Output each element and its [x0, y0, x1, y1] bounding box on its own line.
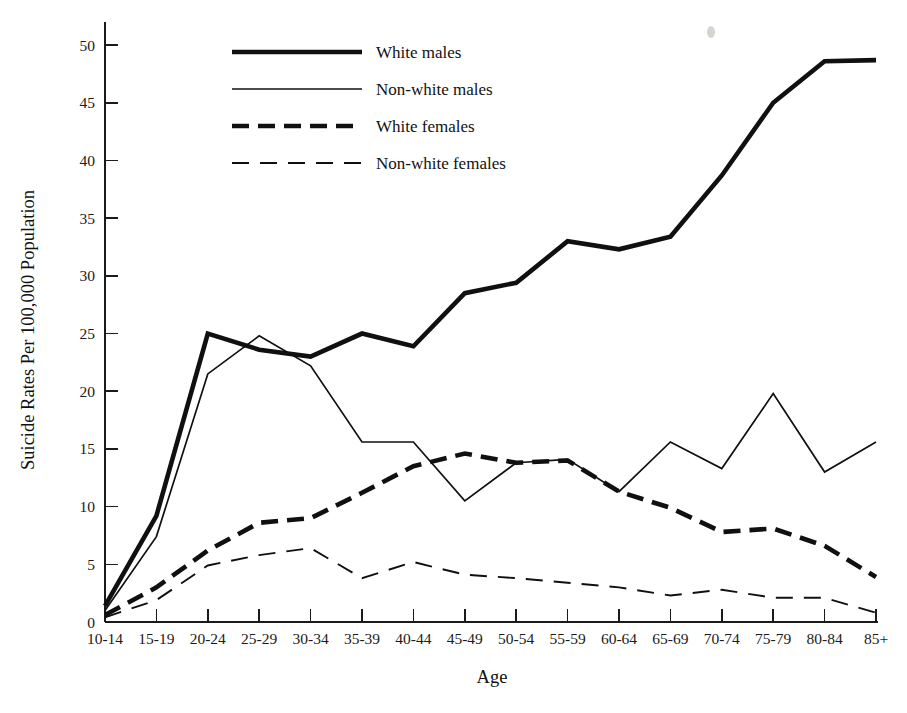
y-axis-ticks: 05101520253035404550: [80, 37, 119, 631]
y-tick-label: 45: [80, 94, 96, 111]
x-tick-label: 70-74: [704, 630, 740, 647]
x-tick-label: 80-84: [807, 630, 843, 647]
x-tick-label: 85+: [864, 630, 888, 647]
x-tick-label: 25-29: [241, 630, 277, 647]
x-axis-label: Age: [477, 667, 508, 687]
series-line-white-females: [105, 454, 876, 616]
x-tick-label: 45-49: [447, 630, 483, 647]
chart-legend: White malesNon-white malesWhite femalesN…: [232, 43, 506, 173]
x-tick-label: 35-39: [344, 630, 380, 647]
paper-smudge: [707, 26, 715, 38]
line-chart-svg: 05101520253035404550 10-1415-1920-2425-2…: [0, 0, 907, 713]
y-tick-label: 30: [80, 267, 96, 284]
x-tick-label: 75-79: [755, 630, 791, 647]
x-tick-label: 55-59: [550, 630, 586, 647]
x-tick-label: 50-54: [498, 630, 534, 647]
legend-label-3: Non-white females: [376, 154, 506, 173]
x-tick-label: 10-14: [87, 630, 123, 647]
y-tick-label: 10: [80, 498, 96, 515]
legend-label-2: White females: [376, 117, 475, 136]
legend-label-0: White males: [376, 43, 461, 62]
y-tick-label: 25: [80, 325, 96, 342]
x-tick-label: 30-34: [293, 630, 329, 647]
y-tick-label: 0: [87, 614, 95, 631]
series-line-white-males: [105, 60, 876, 606]
series-line-non-white-males: [105, 336, 876, 611]
x-tick-label: 15-19: [138, 630, 174, 647]
y-tick-label: 50: [80, 37, 96, 54]
y-tick-label: 35: [80, 210, 96, 227]
chart-figure: 05101520253035404550 10-1415-1920-2425-2…: [0, 0, 907, 713]
y-axis-label: Suicide Rates Per 100,000 Population: [18, 190, 38, 470]
y-tick-label: 15: [80, 440, 96, 457]
y-tick-label: 40: [80, 152, 96, 169]
x-tick-label: 20-24: [190, 630, 226, 647]
legend-label-1: Non-white males: [376, 80, 493, 99]
x-axis-ticks: 10-1415-1920-2425-2930-3435-3940-4445-49…: [87, 609, 888, 647]
y-tick-label: 5: [87, 556, 95, 573]
x-tick-label: 65-69: [652, 630, 688, 647]
x-tick-label: 40-44: [395, 630, 431, 647]
axis-group: [105, 22, 878, 622]
y-tick-label: 20: [80, 383, 96, 400]
series-lines: [105, 60, 876, 617]
series-line-non-white-females: [105, 548, 876, 617]
x-tick-label: 60-64: [601, 630, 637, 647]
